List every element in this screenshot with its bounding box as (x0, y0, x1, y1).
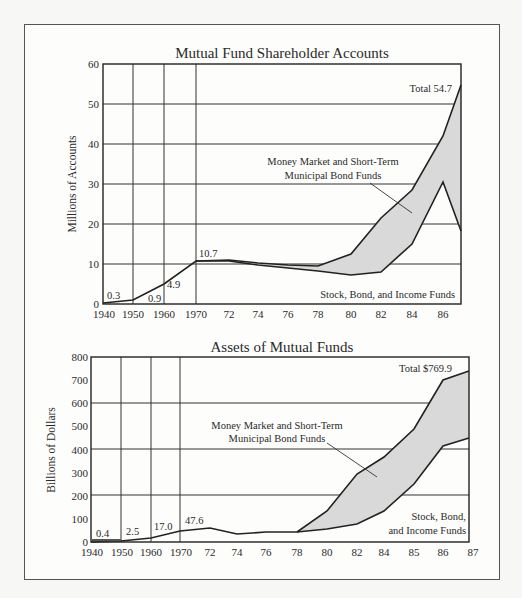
svg-text:84: 84 (407, 308, 419, 320)
svg-text:78: 78 (313, 308, 325, 320)
svg-text:82: 82 (352, 546, 363, 558)
accounts-total-label: Total 54.7 (410, 83, 452, 94)
svg-text:1960: 1960 (140, 546, 163, 558)
svg-text:76: 76 (283, 308, 295, 320)
svg-text:1970: 1970 (170, 546, 193, 558)
svg-text:600: 600 (72, 397, 89, 409)
svg-text:800: 800 (72, 351, 89, 363)
accounts-chart: Mutual Fund Shareholder Accounts 0 10 20… (66, 45, 461, 320)
accounts-y-ticks: 0 10 20 30 40 50 60 (88, 58, 100, 310)
svg-text:1940: 1940 (93, 308, 116, 320)
svg-text:72: 72 (205, 546, 216, 558)
assets-stock-label-1: Stock, Bond, (411, 511, 466, 522)
svg-text:10: 10 (88, 258, 100, 270)
svg-text:50: 50 (88, 98, 100, 110)
accounts-annotations: 0.3 0.9 4.9 10.7 Total 54.7 Money Market… (107, 83, 455, 304)
svg-text:1950: 1950 (111, 546, 134, 558)
assets-total-label: Total $769.9 (399, 363, 452, 374)
assets-chart: Assets of Mutual Funds 0 100 200 300 400… (45, 339, 479, 558)
svg-text:400: 400 (72, 444, 89, 456)
accounts-label-1960: 4.9 (167, 279, 180, 290)
svg-text:72: 72 (224, 308, 235, 320)
svg-text:80: 80 (322, 546, 334, 558)
accounts-shaded-label-2: Municipal Bond Funds (285, 170, 382, 181)
svg-text:80: 80 (346, 308, 358, 320)
assets-x-ticks: 1940 1950 1960 1970 72 74 76 78 80 82 84… (81, 546, 479, 558)
assets-stock-label-2: and Income Funds (388, 525, 466, 536)
assets-label-1970: 47.6 (185, 515, 203, 526)
svg-text:85: 85 (409, 546, 421, 558)
accounts-shaded-label-1: Money Market and Short-Term (267, 156, 398, 167)
accounts-x-ticks: 1940 1950 1960 1970 72 74 76 78 80 82 84… (93, 308, 449, 320)
assets-label-1960: 17.0 (154, 521, 172, 532)
svg-text:78: 78 (292, 546, 304, 558)
svg-text:74: 74 (253, 308, 265, 320)
assets-y-axis-label: Billions of Dollars (45, 407, 57, 493)
svg-text:86: 86 (438, 546, 450, 558)
assets-leader-line (327, 443, 377, 477)
svg-text:1940: 1940 (81, 546, 104, 558)
svg-text:1970: 1970 (185, 308, 208, 320)
accounts-label-1950: 0.9 (148, 293, 161, 304)
assets-label-1950: 2.5 (126, 526, 139, 537)
accounts-y-axis-label: Millions of Accounts (66, 135, 78, 233)
svg-text:1960: 1960 (153, 308, 176, 320)
assets-money-market-area (297, 371, 469, 532)
svg-text:500: 500 (72, 420, 89, 432)
svg-text:20: 20 (88, 218, 100, 230)
svg-text:100: 100 (72, 513, 89, 525)
svg-text:86: 86 (438, 308, 450, 320)
svg-text:1950: 1950 (122, 308, 145, 320)
accounts-chart-title: Mutual Fund Shareholder Accounts (175, 45, 389, 61)
svg-text:82: 82 (376, 308, 387, 320)
svg-text:74: 74 (232, 546, 244, 558)
assets-shaded-label-2: Municipal Bond Funds (229, 433, 326, 444)
svg-text:40: 40 (88, 138, 100, 150)
accounts-label-1970: 10.7 (199, 248, 217, 259)
svg-text:76: 76 (261, 546, 273, 558)
assets-y-ticks: 0 100 200 300 400 500 600 700 800 (72, 351, 89, 548)
charts-svg: Mutual Fund Shareholder Accounts 0 10 20… (0, 0, 522, 598)
svg-text:300: 300 (72, 467, 89, 479)
assets-shaded-label-1: Money Market and Short-Term (211, 420, 342, 431)
assets-chart-title: Assets of Mutual Funds (211, 339, 354, 355)
svg-text:60: 60 (88, 58, 100, 70)
accounts-label-1940: 0.3 (107, 290, 120, 301)
svg-text:84: 84 (379, 546, 391, 558)
assets-label-1940: 0.4 (96, 528, 110, 539)
svg-text:200: 200 (72, 490, 89, 502)
accounts-stock-label: Stock, Bond, and Income Funds (320, 289, 455, 300)
svg-text:87: 87 (468, 546, 480, 558)
svg-text:700: 700 (72, 374, 89, 386)
svg-text:30: 30 (88, 178, 100, 190)
